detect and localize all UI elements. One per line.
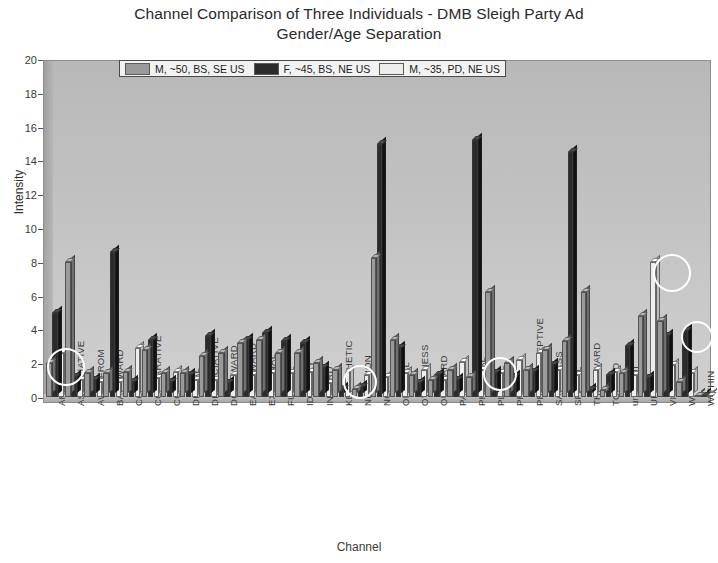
bar-face [256, 340, 262, 397]
bar-face [218, 353, 224, 397]
bar-waste-s0 [676, 382, 682, 397]
y-tick-label: 8 [7, 257, 37, 269]
bar-group [101, 61, 120, 397]
bar-digital-s0 [180, 373, 186, 397]
y-tick-label: 20 [7, 54, 37, 66]
bar-side [268, 326, 272, 393]
bar-side [224, 346, 228, 393]
bar-physical-s1 [472, 140, 478, 397]
bar-earthward-s0 [237, 343, 243, 397]
bar-side [147, 343, 151, 393]
bar-proprioceptive-s0 [523, 370, 529, 397]
bar-sameness-s0 [542, 350, 548, 397]
bar-side [262, 332, 266, 393]
bar-dissociative-s0 [199, 356, 205, 397]
legend-entry-1[interactable]: F, ~45, BS, NE US [254, 63, 371, 75]
bar-group [235, 61, 254, 397]
bar-face [701, 395, 707, 397]
bar-face [103, 373, 109, 397]
y-tick-label: 4 [7, 324, 37, 336]
bar-awayfrom-s0 [84, 373, 90, 397]
bar-side [491, 285, 495, 393]
bar-face [46, 363, 52, 397]
bar-group [559, 61, 578, 397]
bar-group [388, 61, 407, 397]
bar-chart-figure: Channel Comparison of Three Individuals … [0, 0, 718, 563]
bar-kenisthetic-s0 [332, 370, 338, 397]
bar-face [676, 382, 682, 397]
bar-side [243, 336, 247, 393]
bar-group [445, 61, 464, 397]
bar-group [292, 61, 311, 397]
x-axis-tick-labels: AROUNDASSOCIATIVEAWAYFROMBACKWARDCOGNITI… [43, 404, 711, 536]
bar-associative-s0 [65, 262, 71, 397]
bar-face [707, 395, 713, 397]
bar-group [483, 61, 502, 397]
bar-face [409, 375, 415, 397]
bar-group [254, 61, 273, 397]
bar-within-s1 [701, 396, 707, 398]
bar-face [504, 363, 510, 397]
bar-side [115, 245, 119, 393]
bar-upward-s0 [638, 316, 644, 397]
bar-side [688, 324, 692, 393]
bar-face [695, 395, 701, 397]
bar-ordinal-s0 [390, 340, 396, 397]
bar-downward-s0 [218, 353, 224, 397]
chart-legend: M, ~50, BS, SE USF, ~45, BS, NE USM, ~35… [119, 60, 506, 77]
bar-side [306, 336, 310, 393]
bar-face [199, 356, 205, 397]
y-tick-label: 2 [7, 358, 37, 370]
legend-label: F, ~45, BS, NE US [284, 63, 371, 75]
bar-group [693, 61, 712, 397]
bar-side [395, 332, 399, 393]
bar-face [371, 258, 377, 397]
bar-side [204, 349, 208, 393]
bar-face [65, 262, 71, 397]
bar-side [586, 285, 590, 393]
bar-group [311, 61, 330, 397]
bar-face [542, 350, 548, 397]
bar-group [617, 61, 636, 397]
bar-face [447, 370, 453, 397]
bar-within-s2 [707, 396, 713, 398]
bar-group [120, 61, 139, 397]
bar-group [197, 61, 216, 397]
bar-side [573, 145, 577, 393]
y-tick-label: 14 [7, 155, 37, 167]
bar-side [548, 343, 552, 393]
bar-face [472, 140, 478, 397]
bar-side [281, 346, 285, 393]
bar-group [44, 61, 63, 397]
bar-thereward-s0 [581, 292, 587, 397]
legend-entry-2[interactable]: M, ~35, PD, NE US [379, 63, 500, 75]
bar-side [401, 341, 405, 393]
legend-swatch-icon [254, 63, 279, 75]
bar-side [669, 329, 673, 393]
bar-face [237, 343, 243, 397]
bar-group [502, 61, 521, 397]
bar-face [275, 353, 281, 397]
legend-swatch-icon [379, 63, 404, 75]
bar-face [161, 373, 167, 397]
bar-core-s0 [161, 373, 167, 397]
bar-face [638, 316, 644, 397]
bar-face [142, 350, 148, 397]
bar-side [211, 329, 215, 393]
bar-face [600, 390, 606, 397]
bar-face [619, 373, 625, 397]
bar-group [464, 61, 483, 397]
bar-group [273, 61, 292, 397]
bar-toward-s0 [600, 390, 606, 397]
bar-face [390, 340, 396, 397]
bar-side [382, 136, 386, 393]
y-tick-label: 6 [7, 291, 37, 303]
bar-side [663, 314, 667, 393]
bar-visual-s0 [657, 321, 663, 397]
legend-entry-0[interactable]: M, ~50, BS, SE US [125, 63, 245, 75]
bar-identity-s0 [294, 353, 300, 397]
bar-side [643, 309, 647, 393]
bar-backward-s0 [103, 373, 109, 397]
bar-side [300, 346, 304, 393]
bar-side [478, 133, 482, 393]
